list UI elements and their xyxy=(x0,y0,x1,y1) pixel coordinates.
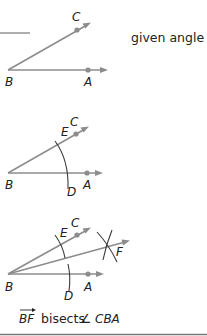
label-b: B xyxy=(5,280,13,294)
arrow-a-icon xyxy=(100,67,108,73)
ray-name: BF xyxy=(19,312,35,326)
label-b: B xyxy=(5,75,13,89)
arc-de xyxy=(55,141,68,189)
label-e: E xyxy=(60,226,68,240)
label-a: A xyxy=(83,75,92,89)
ray-bc xyxy=(8,129,85,173)
label-a: A xyxy=(83,280,92,294)
angle-bisector-construction: C B A given angle C E B D A C E F B D A xyxy=(0,0,207,336)
label-f: F xyxy=(116,245,124,259)
label-d: D xyxy=(64,289,73,303)
step3-bisector xyxy=(8,228,130,292)
arrow-a-icon xyxy=(95,170,103,176)
point-a xyxy=(85,271,90,276)
step1-given-angle xyxy=(8,23,108,74)
caption-given-angle: given angle xyxy=(131,30,204,45)
conclusion-verb: bisects xyxy=(41,311,85,326)
conclusion-statement: BF bisects ∠ CBA xyxy=(19,308,120,326)
arc-d xyxy=(68,264,70,291)
point-c xyxy=(74,232,79,237)
point-c xyxy=(73,131,78,136)
label-a: A xyxy=(82,178,91,192)
label-c: C xyxy=(70,115,79,129)
ray-bf xyxy=(8,242,125,274)
angle-symbol-icon: ∠ xyxy=(80,311,91,326)
arrow-a-icon xyxy=(96,271,104,277)
angle-name: CBA xyxy=(95,312,120,326)
point-c xyxy=(74,27,79,32)
label-b: B xyxy=(5,178,13,192)
label-c: C xyxy=(72,10,81,24)
point-a xyxy=(84,170,89,175)
label-c: C xyxy=(71,216,80,230)
label-d: D xyxy=(67,185,76,199)
label-e: E xyxy=(61,125,69,139)
point-a xyxy=(85,67,90,72)
